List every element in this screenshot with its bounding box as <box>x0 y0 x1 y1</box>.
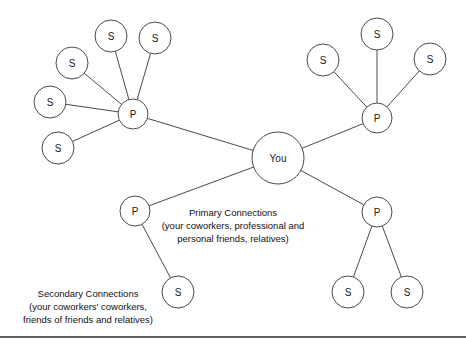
primary-caption-line-1: Primary Connections <box>189 207 277 218</box>
edge-p-tr-to-s-tr-3 <box>387 71 419 107</box>
secondary-caption: Secondary Connections(your coworkers' co… <box>23 288 153 325</box>
node-s-tr-2[interactable]: S <box>361 18 393 50</box>
secondary-caption-line-1: Secondary Connections <box>38 288 139 299</box>
secondary-caption-line-3: friends of friends and relatives) <box>23 314 153 325</box>
edge-you-to-p-bl <box>149 167 254 206</box>
node-label-you: You <box>270 153 287 164</box>
edge-p-br-to-s-br-2 <box>382 226 401 277</box>
node-p-br[interactable]: P <box>362 197 392 227</box>
node-label-p-bl: P <box>132 206 139 217</box>
node-label-s-bl-1: S <box>175 287 182 298</box>
edge-p-tr-to-s-tr-1 <box>334 72 367 107</box>
node-label-s-tr-2: S <box>374 29 381 40</box>
edge-p-tl-to-s-tl-1 <box>115 51 129 99</box>
edge-p-tl-to-s-tl-2 <box>137 53 150 99</box>
edge-p-tl-to-s-tl-4 <box>66 104 118 112</box>
nodes-layer: YouPPPPSSSSSSSSSSS <box>34 18 446 308</box>
node-label-p-br: P <box>374 207 381 218</box>
node-s-tl-4[interactable]: S <box>34 86 66 118</box>
edge-p-br-to-s-br-1 <box>353 226 371 277</box>
node-label-s-br-2: S <box>404 287 411 298</box>
node-label-s-tl-5: S <box>55 143 62 154</box>
edge-you-to-p-tr <box>302 124 363 149</box>
edge-p-bl-to-s-bl-1 <box>142 224 170 278</box>
node-s-tl-1[interactable]: S <box>95 20 127 52</box>
network-diagram-canvas: YouPPPPSSSSSSSSSSS Primary Connections(y… <box>0 0 466 347</box>
node-s-br-2[interactable]: S <box>391 276 423 308</box>
node-s-tl-5[interactable]: S <box>42 132 74 164</box>
node-label-p-tr: P <box>374 113 381 124</box>
node-s-tl-3[interactable]: S <box>56 47 88 79</box>
primary-caption: Primary Connections(your coworkers, prof… <box>162 207 305 244</box>
node-s-tl-2[interactable]: S <box>139 22 171 54</box>
primary-caption-line-3: personal friends, relatives) <box>177 233 288 244</box>
node-label-s-tr-1: S <box>320 55 327 66</box>
secondary-caption-line-2: (your coworkers' coworkers, <box>29 301 147 312</box>
node-label-s-tl-2: S <box>152 33 159 44</box>
node-label-p-tl: P <box>130 109 137 120</box>
node-label-s-tl-4: S <box>47 97 54 108</box>
node-you[interactable]: You <box>252 132 304 184</box>
node-label-s-tl-1: S <box>108 31 115 42</box>
edge-you-to-p-br <box>301 170 364 204</box>
node-label-s-br-1: S <box>345 287 352 298</box>
edge-you-to-p-tl <box>147 118 253 150</box>
primary-caption-line-2: (your coworkers, professional and <box>162 220 305 231</box>
node-p-tr[interactable]: P <box>362 103 392 133</box>
edge-p-tl-to-s-tl-3 <box>84 73 121 104</box>
node-p-bl[interactable]: P <box>120 196 150 226</box>
node-label-s-tr-3: S <box>427 54 434 65</box>
network-diagram-svg: YouPPPPSSSSSSSSSSS Primary Connections(y… <box>0 0 466 347</box>
node-s-br-1[interactable]: S <box>332 276 364 308</box>
node-p-tl[interactable]: P <box>118 99 148 129</box>
node-s-bl-1[interactable]: S <box>162 276 194 308</box>
edge-p-tl-to-s-tl-5 <box>73 120 120 141</box>
node-s-tr-1[interactable]: S <box>307 44 339 76</box>
node-label-s-tl-3: S <box>69 58 76 69</box>
node-s-tr-3[interactable]: S <box>414 43 446 75</box>
